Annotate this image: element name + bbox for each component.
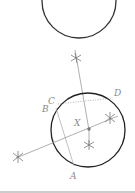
center-point bbox=[87, 127, 90, 130]
left-cross-mark-icon bbox=[13, 151, 23, 163]
label-x: X bbox=[73, 118, 81, 128]
top-circle bbox=[42, 0, 116, 38]
chord-ba bbox=[56, 108, 74, 166]
lower-cross-mark-icon bbox=[84, 140, 94, 150]
chord-cd bbox=[58, 98, 113, 104]
geometry-diagram: C B D X A bbox=[0, 0, 135, 193]
label-b: B bbox=[41, 104, 49, 114]
label-a: A bbox=[69, 171, 77, 181]
label-d: D bbox=[113, 88, 121, 98]
label-c: C bbox=[48, 96, 55, 106]
crossing-line bbox=[16, 116, 118, 158]
